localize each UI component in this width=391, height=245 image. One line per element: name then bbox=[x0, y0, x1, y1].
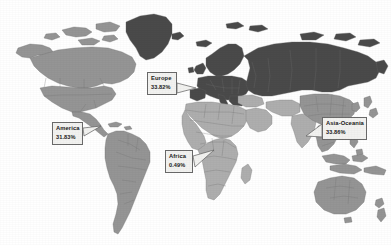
callout-europe-value: 33.82% bbox=[151, 84, 173, 90]
callout-africa: Africa 0.49% bbox=[165, 150, 193, 173]
callout-africa-value: 0.49% bbox=[169, 162, 189, 168]
callout-europe-label: Europe bbox=[151, 75, 173, 82]
callout-africa-label: Africa bbox=[169, 153, 189, 160]
callout-asia-oceania-value: 33.86% bbox=[326, 129, 363, 135]
callout-america: America 31.83% bbox=[52, 122, 83, 145]
callout-america-value: 31.83% bbox=[56, 134, 79, 140]
callout-asia-oceania: Asia-Oceania 33.86% bbox=[322, 117, 367, 140]
world-map-figure: .dark { fill: #4a4a4a; stroke: #606060; … bbox=[0, 0, 391, 245]
callout-asia-oceania-label: Asia-Oceania bbox=[326, 120, 363, 127]
callout-europe: Europe 33.82% bbox=[147, 72, 177, 95]
callout-america-label: America bbox=[56, 125, 79, 132]
